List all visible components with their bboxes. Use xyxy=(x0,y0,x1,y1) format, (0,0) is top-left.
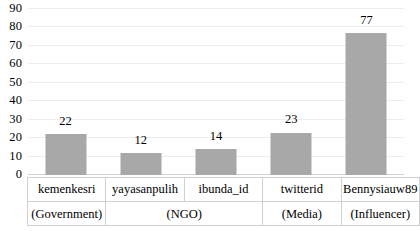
category-label-twitterid: twitterid xyxy=(263,178,341,202)
y-tick-label: 70 xyxy=(9,38,22,51)
bar-value-label: 14 xyxy=(210,130,223,143)
bar-kemenkesri[interactable] xyxy=(45,134,86,175)
table-row: (Government) (NGO) (Media) (Influencer) xyxy=(28,201,420,226)
bar-twitterid[interactable] xyxy=(271,133,312,175)
bar-value-label: 12 xyxy=(135,134,148,147)
y-tick-label: 80 xyxy=(9,20,22,33)
bar-ibunda-id[interactable] xyxy=(195,149,236,175)
group-label-government: (Government) xyxy=(28,201,106,226)
bar-value-label: 77 xyxy=(360,14,373,27)
category-label-yayasanpulih: yayasanpulih xyxy=(106,178,184,202)
y-tick-label: 50 xyxy=(9,75,22,88)
y-tick-label: 20 xyxy=(9,131,22,144)
y-tick-label: 10 xyxy=(9,149,22,162)
bar-slot: 23 xyxy=(254,8,329,175)
y-tick-label: 90 xyxy=(9,2,22,15)
y-tick-label: 0 xyxy=(16,168,22,181)
y-tick-label: 30 xyxy=(9,112,22,125)
category-label-kemenkesri: kemenkesri xyxy=(28,178,106,202)
category-label-ibunda-id: ibunda_id xyxy=(184,178,262,202)
y-tick-label: 40 xyxy=(9,94,22,107)
bar-value-label: 23 xyxy=(285,113,298,126)
bars-layer: 22 12 14 23 77 xyxy=(28,8,404,175)
bar-bennysiauw89[interactable] xyxy=(346,33,387,175)
bar-slot: 14 xyxy=(178,8,253,175)
table-row: kemenkesri yayasanpulih ibunda_id twitte… xyxy=(28,178,420,202)
group-label-media: (Media) xyxy=(263,201,341,226)
bar-yayasanpulih[interactable] xyxy=(120,153,161,175)
bar-value-label: 22 xyxy=(59,115,72,128)
group-label-influencer: (Influencer) xyxy=(341,201,419,226)
bar-slot: 77 xyxy=(329,8,404,175)
category-label-table: kemenkesri yayasanpulih ibunda_id twitte… xyxy=(27,177,420,226)
bar-slot: 12 xyxy=(103,8,178,175)
y-tick-label: 60 xyxy=(9,57,22,70)
category-label-bennysiauw89: Bennysiauw89 xyxy=(341,178,419,202)
bar-slot: 22 xyxy=(28,8,103,175)
group-label-ngo: (NGO) xyxy=(106,201,263,226)
y-axis: 90 80 70 60 50 40 30 20 10 0 xyxy=(0,8,26,175)
